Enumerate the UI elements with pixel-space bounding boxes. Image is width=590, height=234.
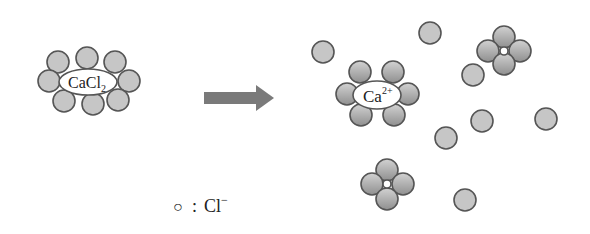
hydrated-chloride-ion-1 <box>477 26 531 75</box>
legend: ○ : Cl− <box>173 193 228 216</box>
reaction-arrow <box>204 85 274 111</box>
dissolution-diagram: CaCl2 Ca2+ <box>0 0 590 234</box>
legend-separator: : <box>192 196 197 216</box>
legend-ion: Cl− <box>204 193 228 216</box>
legend-symbol: ○ <box>173 198 183 215</box>
hydrated-chloride-ion-2 <box>361 159 414 210</box>
cacl2-solid: CaCl2 <box>38 47 140 115</box>
hydrated-calcium-ion: Ca2+ <box>336 61 419 126</box>
